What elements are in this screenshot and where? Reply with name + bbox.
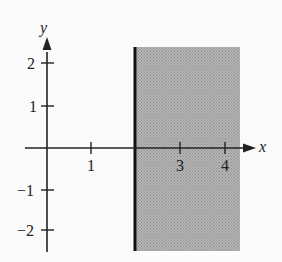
graph: y x 1 3 4 2 1 −1 −2 [0,0,282,262]
x-tick-label-4: 4 [221,158,229,174]
y-axis-label: y [40,20,47,36]
y-axis-arrow [43,37,52,50]
x-tick-label-1: 1 [87,158,95,174]
y-tick-label-m2: −2 [17,223,34,239]
x-axis-arrow [243,144,256,153]
x-tick-label-3: 3 [176,158,184,174]
y-tick-label-m1: −1 [17,183,34,199]
y-tick-label-2: 2 [27,56,35,72]
graph-canvas [0,0,282,262]
y-tick-label-1: 1 [29,99,37,115]
x-axis-label: x [259,139,266,155]
